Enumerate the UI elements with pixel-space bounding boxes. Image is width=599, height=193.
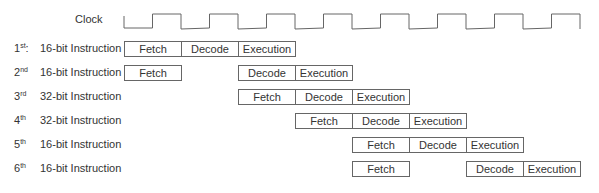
instruction-label: 16-bit Instruction: [40, 138, 121, 150]
stage-execution: Execution: [295, 65, 353, 81]
row-ordinal: 2nd: [14, 66, 28, 78]
instruction-label: 32-bit Instruction: [40, 114, 121, 126]
row-ordinal: 6th: [14, 162, 26, 174]
stage-execution: Execution: [466, 137, 524, 153]
stage-decode: Decode: [238, 65, 296, 81]
stage-execution: Execution: [523, 161, 581, 177]
instruction-label: 16-bit Instruction: [40, 66, 121, 78]
stage-decode: Decode: [352, 113, 410, 129]
stage-execution: Execution: [409, 113, 467, 129]
stage-fetch: Fetch: [238, 89, 296, 105]
row-ordinal: 3rd: [14, 90, 26, 102]
stage-execution: Execution: [352, 89, 410, 105]
clock-waveform: [0, 0, 599, 40]
stage-fetch: Fetch: [295, 113, 353, 129]
stage-decode: Decode: [409, 137, 467, 153]
stage-decode: Decode: [181, 41, 239, 57]
instruction-label: 32-bit Instruction: [40, 90, 121, 102]
row-ordinal: 5th: [14, 138, 26, 150]
instruction-label: 16-bit Instruction: [40, 42, 121, 54]
stage-fetch: Fetch: [352, 161, 410, 177]
row-ordinal: 1st:: [14, 42, 29, 54]
stage-execution: Execution: [238, 41, 296, 57]
stage-decode: Decode: [295, 89, 353, 105]
row-ordinal: 4th: [14, 114, 26, 126]
stage-fetch: Fetch: [124, 65, 182, 81]
stage-decode: Decode: [466, 161, 524, 177]
instruction-label: 16-bit Instruction: [40, 162, 121, 174]
stage-fetch: Fetch: [352, 137, 410, 153]
stage-fetch: Fetch: [124, 41, 182, 57]
